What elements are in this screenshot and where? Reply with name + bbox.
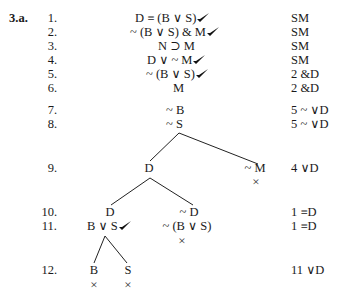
branch-node-left: D	[144, 161, 153, 175]
tree-branch-lines	[0, 0, 342, 298]
closed-branch-x-icon: ×	[252, 175, 259, 189]
line-number: 10.	[27, 205, 57, 219]
branch-node-right: ~ M	[244, 161, 265, 175]
branch-node-left: D	[105, 205, 114, 219]
closed-branch-x-icon: ×	[90, 278, 97, 292]
justification: 4 ∨D	[291, 161, 319, 175]
closed-branch-x-icon: ×	[178, 234, 185, 248]
justification: 1 ≡D	[291, 219, 316, 233]
closed-branch-x-icon: ×	[124, 278, 131, 292]
branch-node-left: B ∨ S	[87, 219, 131, 233]
branch-node-right: ~ D	[180, 205, 199, 219]
line-number: 12.	[27, 263, 57, 277]
line-number: 9.	[27, 161, 57, 175]
branch-node-left: B	[90, 263, 98, 277]
justification: 1 ≡D	[291, 205, 316, 219]
check-mark-icon	[119, 221, 131, 230]
branch-node-right: S	[125, 263, 132, 277]
branch-node-right: ~ (B ∨ S)	[163, 219, 212, 233]
line-number: 11.	[27, 219, 57, 233]
justification: 11 ∨D	[291, 263, 324, 277]
